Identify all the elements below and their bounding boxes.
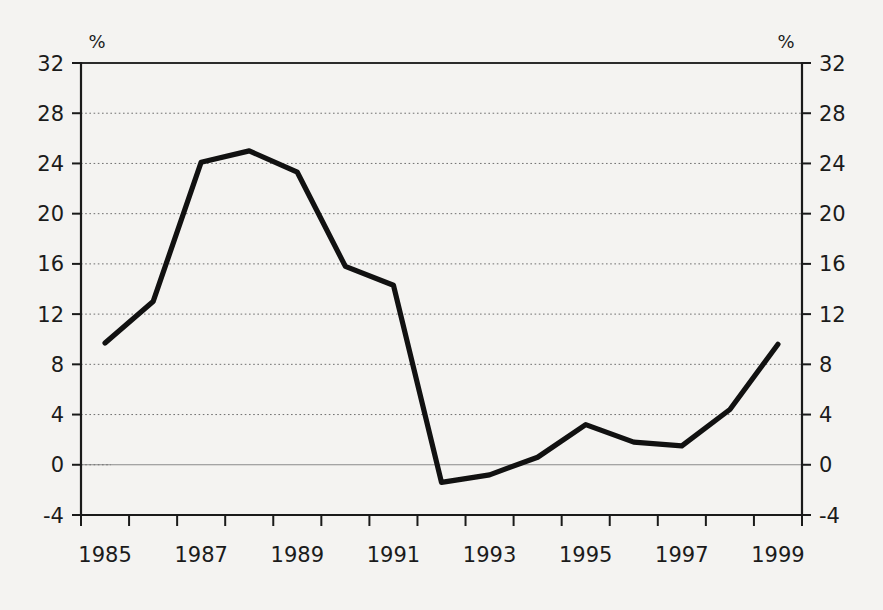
line-chart: -4048121620242832 -4048121620242832 1985… xyxy=(0,0,883,610)
x-tick-label: 1989 xyxy=(271,543,324,567)
y-tick-label: -4 xyxy=(43,504,64,528)
y-tick-label: 32 xyxy=(37,52,64,76)
x-tick-label: 1987 xyxy=(174,543,227,567)
x-tick-label: 1999 xyxy=(751,543,804,567)
y-tick-label: 4 xyxy=(819,403,832,427)
chart-container: -4048121620242832 -4048121620242832 1985… xyxy=(0,0,883,610)
x-tick-label: 1995 xyxy=(559,543,612,567)
y-tick-label: 32 xyxy=(819,52,846,76)
y-tick-label: 24 xyxy=(37,152,64,176)
chart-background xyxy=(0,0,883,610)
y-tick-label: 28 xyxy=(819,102,846,126)
x-tick-label: 1991 xyxy=(367,543,420,567)
y-tick-label: 0 xyxy=(819,453,832,477)
y-tick-label: 12 xyxy=(819,303,846,327)
y-tick-label: 8 xyxy=(51,353,64,377)
x-tick-label: 1985 xyxy=(78,543,131,567)
y-tick-label: 4 xyxy=(51,403,64,427)
y-tick-label: 16 xyxy=(37,252,64,276)
y-tick-label: 20 xyxy=(819,202,846,226)
y-tick-label: 24 xyxy=(819,152,846,176)
y-tick-label: 8 xyxy=(819,353,832,377)
unit-label-right: % xyxy=(777,31,794,52)
y-tick-label: 16 xyxy=(819,252,846,276)
unit-label-left: % xyxy=(88,31,105,52)
y-tick-label: 20 xyxy=(37,202,64,226)
x-tick-label: 1993 xyxy=(463,543,516,567)
y-tick-label: -4 xyxy=(819,504,840,528)
x-tick-label: 1997 xyxy=(655,543,708,567)
y-tick-label: 12 xyxy=(37,303,64,327)
y-tick-label: 0 xyxy=(51,453,64,477)
y-tick-label: 28 xyxy=(37,102,64,126)
